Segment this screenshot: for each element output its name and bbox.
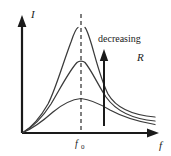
decreasing-label: decreasing [98, 33, 141, 44]
x-tick-f0: f 0 [75, 138, 85, 151]
resonance-chart-svg: I f f 0 decreasing R [0, 0, 171, 156]
y-axis [18, 15, 27, 133]
x-axis-label: f [159, 139, 164, 151]
resistance-symbol-label: R [136, 51, 144, 63]
annotation-arrow-head [100, 49, 108, 61]
x-axis-arrowhead [147, 129, 159, 138]
x-tick-f0-main: f [75, 138, 79, 149]
y-axis-arrowhead [18, 15, 27, 27]
y-axis-label: I [30, 8, 36, 20]
x-axis [22, 129, 159, 138]
curve-medium-resistance [23, 61, 155, 133]
x-tick-f0-subscript: 0 [81, 143, 85, 151]
curve-lowest-resistance-left [23, 28, 78, 133]
decreasing-r-arrow [100, 49, 108, 126]
resonance-curves-figure: I f f 0 decreasing R [0, 0, 171, 156]
